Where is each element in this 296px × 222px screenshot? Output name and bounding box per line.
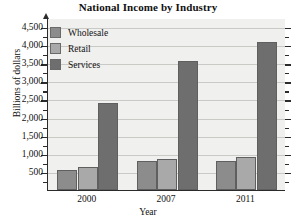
y-axis-minor-tick-right xyxy=(285,73,289,74)
legend-swatch-wholesale xyxy=(50,27,61,38)
legend-item-retail: Retail xyxy=(50,41,142,56)
y-axis-minor-tick xyxy=(43,164,47,165)
y-axis-label: 4,500 xyxy=(22,23,43,32)
y-axis-tick-right xyxy=(285,119,291,120)
legend-label-retail: Retail xyxy=(68,44,91,54)
y-axis-label: 3,000 xyxy=(22,77,43,86)
y-axis-minor-tick-right xyxy=(285,164,289,165)
x-axis-title: Year xyxy=(0,207,296,217)
legend-item-services: Services xyxy=(50,57,142,72)
y-axis-label: 3,500 xyxy=(22,59,43,68)
y-axis-label: 1,000 xyxy=(22,150,43,159)
bar-2007-retail xyxy=(157,159,177,190)
x-axis-label-2000: 2000 xyxy=(57,194,117,204)
y-axis-minor-tick xyxy=(43,128,47,129)
y-axis-minor-tick-right xyxy=(285,182,289,183)
y-axis-title: Billions of dollars xyxy=(12,28,22,138)
y-axis-minor-tick-right xyxy=(285,91,289,92)
y-axis-minor-tick-right xyxy=(285,37,289,38)
y-axis-tick-right xyxy=(285,28,291,29)
y-axis-tick-right xyxy=(285,64,291,65)
y-axis-minor-tick xyxy=(43,146,47,147)
gridline xyxy=(48,137,285,138)
legend-swatch-services xyxy=(50,59,61,70)
y-axis-label: 2,500 xyxy=(22,95,43,104)
gridline xyxy=(48,155,285,156)
y-axis-minor-tick xyxy=(43,37,47,38)
y-axis-tick-right xyxy=(285,100,291,101)
x-axis-label-2011: 2011 xyxy=(215,194,275,204)
y-axis-label: 4,000 xyxy=(22,41,43,50)
chart-legend: WholesaleRetailServices xyxy=(50,25,142,73)
bar-chart: National Income by Industry Billions of … xyxy=(0,0,296,222)
y-axis-minor-tick-right xyxy=(285,146,289,147)
gridline xyxy=(48,82,285,83)
y-axis-minor-tick-right xyxy=(285,128,289,129)
legend-swatch-retail xyxy=(50,43,61,54)
legend-label-services: Services xyxy=(68,60,100,70)
y-axis-label: 1,500 xyxy=(22,132,43,141)
legend-item-wholesale: Wholesale xyxy=(50,25,142,40)
bar-2000-wholesale xyxy=(57,170,77,190)
chart-title: National Income by Industry xyxy=(0,1,296,13)
bar-2000-retail xyxy=(78,167,98,190)
y-axis-label: 2,000 xyxy=(22,114,43,123)
y-axis-minor-tick xyxy=(43,55,47,56)
y-axis-minor-tick-right xyxy=(285,110,289,111)
y-axis-minor-tick-right xyxy=(285,55,289,56)
bar-2007-services xyxy=(178,61,198,190)
y-axis-tick-right xyxy=(285,155,291,156)
legend-label-wholesale: Wholesale xyxy=(68,28,108,38)
bar-2011-retail xyxy=(236,157,256,190)
gridline xyxy=(48,119,285,120)
y-axis-minor-tick xyxy=(43,110,47,111)
y-axis-tick-right xyxy=(285,173,291,174)
y-axis-label: 500 xyxy=(29,168,43,177)
bar-2011-wholesale xyxy=(216,161,236,190)
y-axis-tick-right xyxy=(285,46,291,47)
y-axis-minor-tick xyxy=(43,182,47,183)
y-axis-tick-right xyxy=(285,137,291,138)
bar-2000-services xyxy=(98,103,118,190)
gridline xyxy=(48,100,285,101)
bar-2011-services xyxy=(257,42,277,190)
y-axis-tick-right xyxy=(285,82,291,83)
y-axis-minor-tick xyxy=(43,91,47,92)
x-axis-label-2007: 2007 xyxy=(136,194,196,204)
y-axis-minor-tick xyxy=(43,73,47,74)
bar-2007-wholesale xyxy=(137,161,157,190)
